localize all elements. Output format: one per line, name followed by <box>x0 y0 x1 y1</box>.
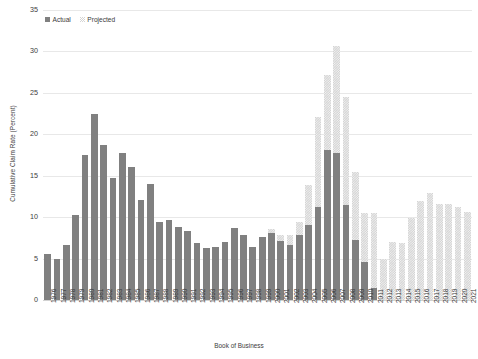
x-axis-tick-label: 1992 <box>199 289 206 303</box>
bar-column <box>427 193 434 300</box>
x-axis-tick-label: 2005 <box>321 289 328 303</box>
x-axis-tick-label: 1984 <box>125 289 132 303</box>
bar-column <box>147 184 154 300</box>
x-axis-tick-label: 2000 <box>274 289 281 303</box>
bar-segment-projected <box>305 185 312 226</box>
y-axis-tick-label: 20 <box>16 130 38 137</box>
x-axis-tick-label: 2011 <box>377 289 384 303</box>
bar-segment-projected <box>324 75 331 150</box>
x-axis-tick-label: 2008 <box>349 289 356 303</box>
x-axis-tick-label: 2019 <box>451 289 458 303</box>
x-axis-tick-label: 1996 <box>237 289 244 303</box>
bar-segment-projected <box>445 204 452 300</box>
x-axis-tick-label: 1983 <box>116 289 123 303</box>
bar-segment-actual <box>343 205 350 300</box>
bar-segment-projected <box>464 212 471 300</box>
bar-segment-projected <box>277 235 284 242</box>
x-axis-tick-label: 2002 <box>293 289 300 303</box>
bar-column <box>128 167 135 300</box>
bar-column <box>119 153 126 300</box>
bar-column <box>361 213 368 300</box>
y-axis-tick-label: 35 <box>16 6 38 13</box>
x-axis-tick-label: 1978 <box>69 289 76 303</box>
bar-segment-actual <box>119 153 126 300</box>
x-axis-tick-label: 1976 <box>50 289 57 303</box>
x-axis-tick-label: 2006 <box>330 289 337 303</box>
bar-column <box>324 75 331 300</box>
x-axis-tick-label: 2012 <box>386 289 393 303</box>
x-axis-tick-label: 2018 <box>442 289 449 303</box>
bar-segment-actual <box>147 184 154 300</box>
bar-segment-actual <box>91 114 98 300</box>
x-axis-tick-label: 2014 <box>405 289 412 303</box>
bar-segment-projected <box>436 204 443 300</box>
x-axis-tick-label: 1981 <box>97 289 104 303</box>
x-axis-tick-label: 2015 <box>414 289 421 303</box>
bar-segment-actual <box>333 153 340 300</box>
x-axis-tick-label: 1994 <box>218 289 225 303</box>
bar-column <box>72 215 79 300</box>
x-axis-tick-label: 1988 <box>162 289 169 303</box>
x-axis-tick-label: 1993 <box>209 289 216 303</box>
bar-column <box>305 185 312 300</box>
bar-column <box>100 145 107 300</box>
x-axis-tick-label: 1989 <box>172 289 179 303</box>
bar-segment-projected <box>343 97 350 205</box>
bar-segment-actual <box>110 178 117 300</box>
bar-column <box>315 117 322 300</box>
bar-column <box>371 213 378 300</box>
bar-segment-projected <box>352 172 359 240</box>
x-axis-tick-label: 2016 <box>423 289 430 303</box>
bar-column <box>138 200 145 300</box>
x-axis-tick-label: 2020 <box>461 289 468 303</box>
x-axis-tick-label: 1980 <box>88 289 95 303</box>
y-axis-tick-label: 30 <box>16 47 38 54</box>
bar-column <box>91 114 98 300</box>
bar-segment-projected <box>315 117 322 207</box>
bar-column <box>110 178 117 300</box>
x-axis-tick-label: 2007 <box>339 289 346 303</box>
bar-segment-projected <box>417 201 424 300</box>
bar-segment-projected <box>333 46 340 152</box>
bar-segment-projected <box>427 193 434 300</box>
x-axis-tick-label: 1977 <box>60 289 67 303</box>
bar-segment-actual <box>128 167 135 300</box>
bar-segment-actual <box>100 145 107 300</box>
bar-segment-actual <box>138 200 145 300</box>
x-axis-tick-label: 2003 <box>302 289 309 303</box>
bar-segment-projected <box>408 218 415 300</box>
cumulative-claim-rate-chart: Cumulative Claim Rate (Percent) 05101520… <box>0 0 478 359</box>
bar-segment-projected <box>296 222 303 234</box>
x-axis-tick-label: 2017 <box>433 289 440 303</box>
x-axis-tick-label: 1979 <box>78 289 85 303</box>
bar-segment-actual <box>324 150 331 300</box>
y-axis-tick-label: 0 <box>16 296 38 303</box>
x-axis-tick-label: 2004 <box>311 289 318 303</box>
x-axis-tick-label: 1985 <box>134 289 141 303</box>
x-axis-tick-label: 2021 <box>470 289 477 303</box>
x-axis-tick-label: 1991 <box>190 289 197 303</box>
y-axis-tick-label: 10 <box>16 213 38 220</box>
bar-segment-projected <box>371 213 378 288</box>
bar-column <box>343 97 350 300</box>
bar-column <box>333 46 340 300</box>
plot-area <box>43 10 472 300</box>
bar-column <box>352 172 359 300</box>
x-axis-tick-label: 1999 <box>265 289 272 303</box>
bar-column <box>417 201 424 300</box>
bar-column <box>455 207 462 300</box>
x-axis-tick-label: 2001 <box>283 289 290 303</box>
bar-segment-actual <box>72 215 79 300</box>
x-axis-tick-label: 2013 <box>395 289 402 303</box>
x-axis-tick-label: 1990 <box>181 289 188 303</box>
x-axis-tick-label: 1998 <box>255 289 262 303</box>
bar-segment-actual <box>315 207 322 300</box>
bar-column <box>82 155 89 300</box>
x-axis-title: Book of Business <box>0 342 478 349</box>
bar-segment-projected <box>361 213 368 262</box>
bar-column <box>408 218 415 300</box>
x-axis-tick-label: 1997 <box>246 289 253 303</box>
x-axis-tick-label: 1982 <box>106 289 113 303</box>
bar-column <box>436 204 443 300</box>
bar-column <box>464 212 471 300</box>
